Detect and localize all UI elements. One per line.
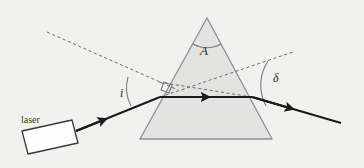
- emergent-ray-arrowhead-segment: [252, 97, 293, 109]
- incidence-angle-arc: [127, 77, 131, 106]
- prism-refraction-diagram: laser A i δ: [0, 0, 364, 168]
- normal-dashed-line: [47, 32, 178, 90]
- laser-source-box: [22, 120, 78, 154]
- diagram-canvas: [0, 0, 364, 168]
- triangular-prism: [140, 18, 272, 139]
- incident-ray-arrowhead-segment: [76, 119, 106, 131]
- incidence-angle-label: i: [120, 86, 123, 101]
- apex-angle-label: A: [200, 43, 208, 59]
- laser-label: laser: [21, 114, 40, 125]
- deviation-angle-label: δ: [273, 71, 279, 86]
